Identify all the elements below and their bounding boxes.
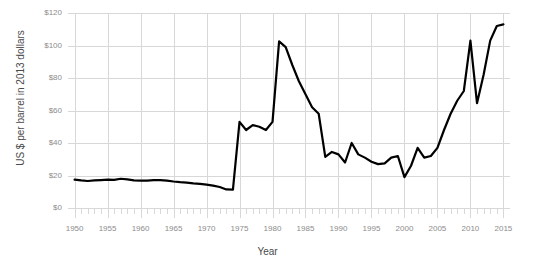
chart-plot-area bbox=[0, 0, 535, 275]
y-axis-title: US $ per barrel in 2013 dollars bbox=[14, 0, 28, 208]
y-tick-label: $40 bbox=[28, 138, 62, 147]
y-tick-label: $100 bbox=[28, 41, 62, 50]
oil-price-chart: US $ per barrel in 2013 dollars Year $0$… bbox=[0, 0, 535, 275]
y-tick-label: $120 bbox=[28, 8, 62, 17]
x-tick-label: 2015 bbox=[483, 224, 523, 233]
y-tick-label: $60 bbox=[28, 106, 62, 115]
grid-lines bbox=[68, 13, 510, 209]
data-series-line bbox=[75, 24, 504, 189]
y-tick-label: $0 bbox=[28, 203, 62, 212]
y-tick-label: $20 bbox=[28, 171, 62, 180]
x-axis-title: Year bbox=[0, 246, 535, 257]
x-axis-minor-ticks bbox=[76, 209, 504, 218]
y-tick-label: $80 bbox=[28, 73, 62, 82]
